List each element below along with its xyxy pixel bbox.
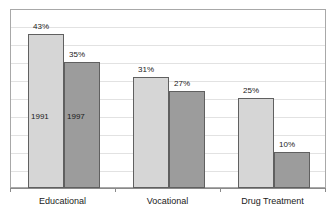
bar-value-educational-1997: 35%: [69, 50, 85, 60]
category-label-vocational: Vocational: [115, 195, 220, 207]
bar-series-label-1991: 1991: [31, 112, 49, 122]
category-label-educational: Educational: [10, 195, 115, 207]
bar-value-drug-treatment-1991: 25%: [243, 86, 259, 96]
bar-value-drug-treatment-1997: 10%: [279, 140, 295, 150]
bar-value-vocational-1991: 31%: [138, 65, 154, 75]
x-axis-tick: [325, 188, 326, 192]
x-axis-line: [10, 188, 326, 189]
bar-drug-treatment-1997: [274, 152, 310, 188]
bar-vocational-1997: [169, 91, 205, 188]
x-axis-tick: [10, 188, 11, 192]
bar-series-label-1997: 1997: [67, 112, 85, 122]
x-axis-tick: [115, 188, 116, 192]
bar-chart: 1991 43% 1997 35% 31% 27% 25% 10% Educat…: [0, 0, 336, 217]
bar-educational-1991: [28, 34, 64, 188]
gridline: [11, 27, 325, 28]
x-axis-tick: [220, 188, 221, 192]
bar-vocational-1991: [133, 77, 169, 188]
bar-drug-treatment-1991: [238, 98, 274, 188]
bar-educational-1997: [64, 62, 100, 188]
bar-value-educational-1991: 43%: [33, 22, 49, 32]
category-label-drug-treatment: Drug Treatment: [220, 195, 325, 207]
bar-value-vocational-1997: 27%: [174, 79, 190, 89]
